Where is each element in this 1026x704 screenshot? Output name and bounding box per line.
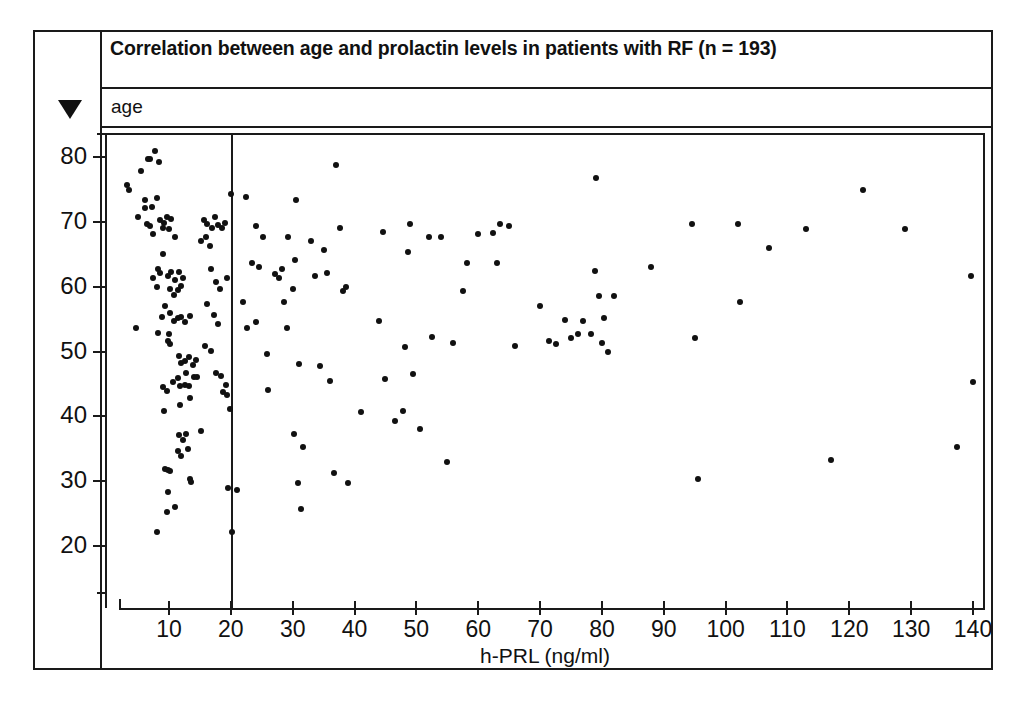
x-axis-tick-label: 70 bbox=[510, 617, 570, 642]
scatter-point bbox=[203, 234, 209, 240]
scatter-point bbox=[568, 335, 574, 341]
scatter-point bbox=[243, 194, 249, 200]
scatter-point bbox=[183, 431, 189, 437]
scatter-point bbox=[417, 426, 423, 432]
scatter-point bbox=[219, 225, 225, 231]
x-axis-spine bbox=[119, 608, 985, 610]
scatter-point bbox=[444, 459, 450, 465]
scatter-point bbox=[506, 223, 512, 229]
scatter-point bbox=[147, 156, 153, 162]
scatter-point bbox=[155, 330, 161, 336]
scatter-point bbox=[160, 251, 166, 257]
scatter-point bbox=[737, 299, 743, 305]
scatter-point bbox=[358, 409, 364, 415]
scatter-point bbox=[208, 348, 214, 354]
y-axis-tick bbox=[93, 221, 106, 223]
x-axis-tick-label: 10 bbox=[139, 617, 199, 642]
scatter-point bbox=[312, 273, 318, 279]
scatter-point bbox=[188, 479, 194, 485]
scatter-point bbox=[276, 275, 282, 281]
scatter-point bbox=[240, 299, 246, 305]
scatter-point bbox=[228, 191, 234, 197]
scatter-point bbox=[308, 238, 314, 244]
scatter-point bbox=[954, 444, 960, 450]
scatter-point bbox=[198, 428, 204, 434]
scatter-point bbox=[284, 325, 290, 331]
scatter-point bbox=[599, 340, 605, 346]
scatter-point bbox=[178, 283, 184, 289]
y-axis-tick-label: 20 bbox=[35, 533, 87, 557]
scatter-point bbox=[450, 340, 456, 346]
scatter-point bbox=[176, 269, 182, 275]
y-axis-tick bbox=[93, 156, 106, 158]
scatter-point bbox=[222, 220, 228, 226]
scatter-point bbox=[553, 341, 559, 347]
scatter-point bbox=[229, 529, 235, 535]
x-axis-tick bbox=[786, 601, 788, 615]
scatter-point bbox=[695, 476, 701, 482]
scatter-point bbox=[410, 371, 416, 377]
y-axis-top-cap bbox=[97, 133, 107, 135]
scatter-point bbox=[162, 303, 168, 309]
scatter-point bbox=[593, 175, 599, 181]
scatter-point bbox=[156, 159, 162, 165]
x-axis-tick-label: 110 bbox=[757, 617, 817, 642]
y-axis-tick bbox=[93, 351, 106, 353]
figure-root: Correlation between age and prolactin le… bbox=[0, 0, 1026, 704]
x-axis-tick bbox=[230, 601, 232, 615]
scatter-point bbox=[343, 284, 349, 290]
scatter-point bbox=[165, 489, 171, 495]
scatter-point bbox=[407, 221, 413, 227]
scatter-point bbox=[400, 408, 406, 414]
scatter-point bbox=[176, 353, 182, 359]
x-axis-tick bbox=[415, 601, 417, 615]
scatter-point bbox=[537, 303, 543, 309]
scatter-point bbox=[204, 301, 210, 307]
scatter-point bbox=[186, 383, 192, 389]
scatter-point bbox=[405, 249, 411, 255]
scatter-point bbox=[161, 408, 167, 414]
x-axis-tick-label: 60 bbox=[448, 617, 508, 642]
scatter-point bbox=[460, 288, 466, 294]
scatter-point bbox=[392, 418, 398, 424]
down-triangle-icon bbox=[58, 100, 82, 119]
scatter-point bbox=[190, 362, 196, 368]
y-axis-name: age bbox=[111, 93, 143, 121]
scatter-point bbox=[575, 331, 581, 337]
scatter-point bbox=[167, 286, 173, 292]
scatter-point bbox=[224, 275, 230, 281]
scatter-point bbox=[290, 286, 296, 292]
scatter-point bbox=[202, 343, 208, 349]
scatter-point bbox=[198, 238, 204, 244]
x-axis-tick bbox=[725, 601, 727, 615]
scatter-point bbox=[902, 226, 908, 232]
scatter-point bbox=[172, 234, 178, 240]
x-axis-tick-label: 80 bbox=[572, 617, 632, 642]
scatter-point bbox=[279, 266, 285, 272]
scatter-point bbox=[376, 318, 382, 324]
scatter-point bbox=[331, 470, 337, 476]
scatter-point bbox=[193, 357, 199, 363]
scatter-point bbox=[182, 319, 188, 325]
scatter-point bbox=[735, 221, 741, 227]
y-axis-tick bbox=[93, 415, 106, 417]
scatter-point bbox=[218, 373, 224, 379]
scatter-point bbox=[429, 334, 435, 340]
scatter-point bbox=[167, 310, 173, 316]
y-axis-tick-label: 40 bbox=[35, 403, 87, 427]
scatter-point bbox=[293, 197, 299, 203]
scatter-point bbox=[291, 431, 297, 437]
scatter-point bbox=[605, 349, 611, 355]
reference-line-vertical bbox=[231, 135, 233, 608]
x-axis-tick-label: 140 bbox=[943, 617, 1003, 642]
scatter-point bbox=[970, 379, 976, 385]
scatter-point bbox=[494, 260, 500, 266]
y-axis-tick bbox=[93, 286, 106, 288]
scatter-point bbox=[150, 231, 156, 237]
scatter-point bbox=[194, 374, 200, 380]
y-axis-tick bbox=[93, 545, 106, 547]
x-axis-tick bbox=[354, 601, 356, 615]
scatter-point bbox=[207, 243, 213, 249]
scatter-point bbox=[126, 187, 132, 193]
scatter-point bbox=[253, 319, 259, 325]
